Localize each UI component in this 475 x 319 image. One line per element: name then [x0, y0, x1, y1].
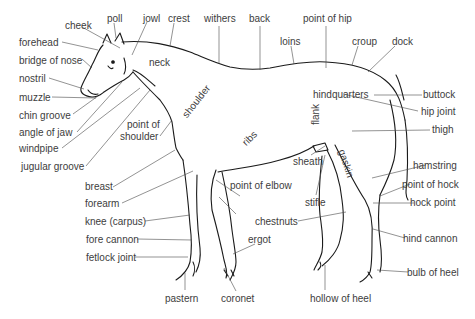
- label-muzzle: muzzle: [19, 92, 51, 103]
- label-hollow-of-heel: hollow of heel: [310, 293, 371, 304]
- label-neck: neck: [149, 57, 170, 68]
- horse-outline-drawing: [0, 0, 475, 319]
- label-ergot: ergot: [248, 234, 271, 245]
- label-stifle: stifle: [305, 197, 326, 208]
- label-knee-carpus: knee (carpus): [85, 216, 146, 227]
- label-bulb-of-heel: bulb of heel: [407, 267, 459, 278]
- label-chin-groove: chin groove: [19, 110, 71, 121]
- label-croup: croup: [352, 36, 377, 47]
- label-jugular-groove: jugular groove: [21, 161, 84, 172]
- label-crest: crest: [168, 13, 190, 24]
- label-hindquarters: hindquarters: [313, 89, 369, 100]
- label-fore-cannon: fore cannon: [86, 234, 139, 245]
- label-point-of-shoulder-2: shoulder: [120, 131, 158, 142]
- label-back: back: [249, 13, 270, 24]
- horse-anatomy-diagram: cheek poll jowl crest withers back point…: [0, 0, 475, 319]
- label-pastern: pastern: [165, 293, 198, 304]
- label-windpipe: windpipe: [19, 143, 58, 154]
- label-fetlock-joint: fetlock joint: [86, 252, 136, 263]
- label-bridge-of-nose: bridge of nose: [19, 55, 82, 66]
- label-hamstring: hamstring: [413, 160, 457, 171]
- label-dock: dock: [392, 36, 413, 47]
- label-nostril: nostril: [19, 73, 46, 84]
- label-forearm: forearm: [85, 198, 119, 209]
- label-point-of-hock: point of hock: [402, 179, 459, 190]
- label-flank: flank: [310, 104, 321, 125]
- label-chestnuts: chestnuts: [255, 216, 298, 227]
- label-point-of-elbow: point of elbow: [230, 180, 292, 191]
- label-breast: breast: [85, 181, 113, 192]
- label-hip-joint: hip joint: [421, 106, 455, 117]
- label-thigh: thigh: [432, 124, 454, 135]
- label-point-of-shoulder-1: point of: [127, 119, 160, 130]
- label-angle-of-jaw: angle of jaw: [19, 127, 72, 138]
- label-loins: loins: [280, 36, 301, 47]
- label-jowl: jowl: [143, 13, 160, 24]
- label-point-of-hip: point of hip: [303, 13, 352, 24]
- label-buttock: buttock: [423, 89, 455, 100]
- label-cheek: cheek: [65, 20, 92, 31]
- label-withers: withers: [204, 13, 236, 24]
- label-coronet: coronet: [221, 293, 254, 304]
- label-forehead: forehead: [19, 37, 58, 48]
- label-hock-point: hock point: [410, 197, 456, 208]
- label-sheath: sheath: [293, 156, 323, 167]
- label-hind-cannon: hind cannon: [403, 233, 458, 244]
- label-poll: poll: [107, 13, 123, 24]
